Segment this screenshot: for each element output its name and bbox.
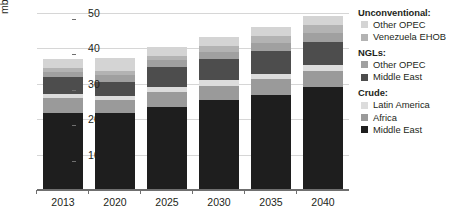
legend-item-ngl_other_opec[interactable]: Other OPEC — [358, 60, 454, 70]
x-tick-label: 2030 — [199, 190, 239, 208]
bar-segment — [43, 59, 83, 68]
x-tick-label: 2035 — [251, 190, 291, 208]
legend-item-label: Middle East — [373, 125, 422, 135]
plot-area — [37, 13, 349, 190]
bar-column — [251, 13, 291, 190]
bar-segment — [95, 58, 135, 71]
bar-segment — [303, 87, 343, 190]
legend-group: NGLs:Other OPECMiddle East — [358, 48, 454, 82]
legend-swatch-icon — [361, 61, 368, 68]
y-tick-mark — [72, 54, 76, 55]
y-tick-mark — [72, 19, 76, 20]
bar-segment — [251, 43, 291, 51]
bar-segment — [251, 95, 291, 190]
bar-segment — [303, 25, 343, 33]
legend-swatch-icon — [361, 34, 368, 41]
x-tick-mark — [36, 190, 37, 194]
bar-column — [43, 13, 83, 190]
bar-segment — [303, 16, 343, 26]
bar-segment — [95, 113, 135, 190]
x-tick-mark — [88, 190, 89, 194]
chart-legend: Unconventional:Other OPECVenezuela EHOBN… — [358, 8, 454, 137]
legend-group-title: NGLs: — [358, 48, 454, 58]
bar-segment — [95, 82, 135, 97]
y-tick-label: 10 — [76, 149, 100, 161]
bar-column — [95, 13, 135, 190]
y-tick-label: 50 — [76, 7, 100, 19]
chart-container: mb/d 1020304050 201320202025203020352040… — [0, 0, 455, 219]
y-axis-label: mb/d — [0, 0, 10, 14]
legend-item-unconv_other_opec[interactable]: Other OPEC — [358, 20, 454, 30]
bar-segment — [147, 47, 187, 55]
y-tick-mark — [72, 90, 76, 91]
legend-item-ngl_middle_east[interactable]: Middle East — [358, 72, 454, 82]
legend-swatch-icon — [361, 74, 368, 81]
legend-group-title: Unconventional: — [358, 8, 454, 18]
legend-item-crude_middle_east[interactable]: Middle East — [358, 125, 454, 135]
bar-column — [199, 13, 239, 190]
legend-group: Unconventional:Other OPECVenezuela EHOB — [358, 8, 454, 42]
bar-segment — [251, 51, 291, 73]
x-tick-mark — [296, 190, 297, 194]
y-tick-label: 20 — [76, 113, 100, 125]
bar-segment — [43, 98, 83, 113]
legend-swatch-icon — [361, 102, 368, 109]
y-tick-label: 30 — [76, 78, 100, 90]
bar-segment — [147, 67, 187, 87]
y-tick-mark — [72, 161, 76, 162]
x-tick-label: 2025 — [147, 190, 187, 208]
legend-item-label: Venezuela EHOB — [373, 32, 446, 42]
x-tick-mark — [244, 190, 245, 194]
legend-group: Crude:Latin AmericaAfricaMiddle East — [358, 88, 454, 135]
bar-segment — [199, 86, 239, 100]
bar-segment — [303, 42, 343, 65]
legend-item-unconv_venezuela_ehob[interactable]: Venezuela EHOB — [358, 32, 454, 42]
x-tick-mark — [192, 190, 193, 194]
bar-column — [303, 13, 343, 190]
bar-segment — [251, 79, 291, 95]
x-tick-mark — [140, 190, 141, 194]
legend-group-title: Crude: — [358, 88, 454, 98]
bar-segment — [303, 33, 343, 41]
legend-swatch-icon — [361, 21, 368, 28]
bar-column — [147, 13, 187, 190]
legend-item-label: Other OPEC — [373, 20, 426, 30]
bar-group — [37, 13, 349, 190]
bar-segment — [251, 27, 291, 36]
x-axis: 201320202025203020352040 — [37, 190, 349, 219]
y-tick-mark — [72, 125, 76, 126]
x-axis-tick-labels: 201320202025203020352040 — [37, 190, 349, 219]
legend-item-label: Other OPEC — [373, 60, 426, 70]
legend-swatch-icon — [361, 126, 368, 133]
x-tick-label: 2020 — [95, 190, 135, 208]
bar-segment — [147, 107, 187, 190]
bar-segment — [95, 100, 135, 113]
bar-segment — [199, 52, 239, 59]
bar-segment — [199, 59, 239, 80]
legend-item-crude_latin_america[interactable]: Latin America — [358, 100, 454, 110]
bar-segment — [147, 92, 187, 108]
legend-item-label: Middle East — [373, 72, 422, 82]
bar-segment — [251, 36, 291, 43]
y-tick-label: 40 — [76, 42, 100, 54]
bar-segment — [303, 71, 343, 87]
bar-segment — [199, 100, 239, 190]
legend-item-label: Latin America — [373, 100, 430, 110]
x-tick-label: 2040 — [303, 190, 343, 208]
bar-segment — [147, 60, 187, 67]
legend-swatch-icon — [361, 114, 368, 121]
legend-item-label: Africa — [373, 113, 397, 123]
bar-segment — [199, 37, 239, 45]
x-tick-label: 2013 — [43, 190, 83, 208]
legend-item-crude_africa[interactable]: Africa — [358, 113, 454, 123]
